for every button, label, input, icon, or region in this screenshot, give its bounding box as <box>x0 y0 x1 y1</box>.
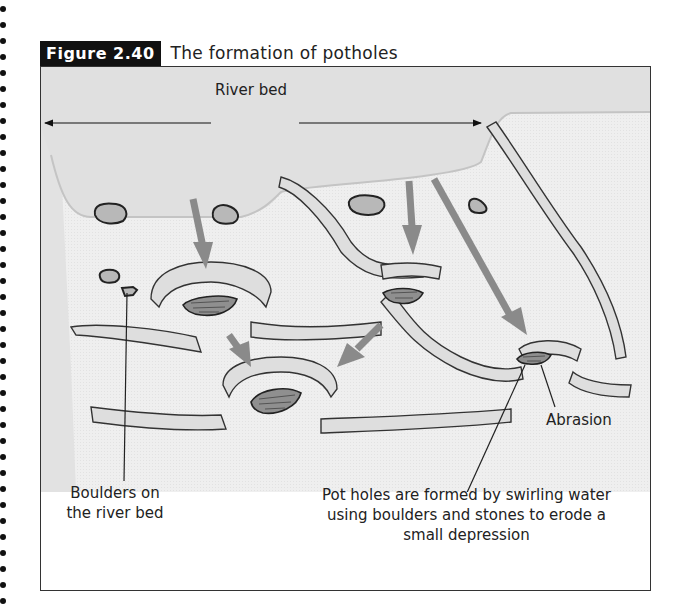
figure-header: Figure 2.40 The formation of potholes <box>40 40 398 66</box>
diagram-frame: River bed Abrasion Boulders on the river… <box>40 66 651 591</box>
figure-title: The formation of potholes <box>171 43 398 63</box>
binding-dots <box>0 0 10 604</box>
river-bed-label: River bed <box>215 80 287 100</box>
boulders-label: Boulders on the river bed <box>55 483 175 523</box>
abrasion-label: Abrasion <box>546 410 612 430</box>
figure-number: Figure 2.40 <box>40 41 161 66</box>
potholes-caption: Pot holes are formed by swirling water u… <box>284 485 649 545</box>
